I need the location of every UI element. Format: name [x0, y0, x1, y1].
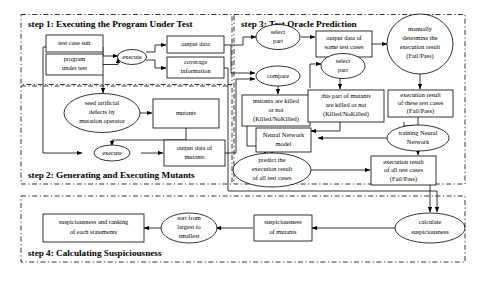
node-select-part-1[interactable]: select part	[256, 25, 300, 50]
node-program-under-test-line2: under test	[62, 64, 87, 71]
node-manually-line2: determine the	[403, 34, 438, 41]
node-suspiciousness-of-mutants[interactable]: suspiciousness of mutants	[254, 215, 312, 241]
node-thispart-line1: this part of mutants	[321, 92, 371, 99]
node-output-data-some-test-cases[interactable]: output data of some test cases	[316, 31, 372, 57]
node-execresultall-line2: of all test cases	[384, 166, 423, 173]
node-manually-line4: (Fail/Pass)	[406, 52, 433, 60]
node-compare-label: compare	[267, 72, 289, 79]
node-manually-determine[interactable]: manually determine the execution result …	[387, 14, 453, 74]
node-seed-defects-line3: mutation operator	[79, 117, 125, 124]
node-output-data-label: output data	[181, 40, 210, 47]
node-suspranking-line2: of each statements	[70, 228, 118, 235]
node-suspranking-line1: suspiciousness and ranking	[59, 218, 129, 225]
node-execution-result-all-test-cases[interactable]: execution result of all test cases (Fail…	[371, 156, 436, 185]
node-output-some-line1: output data of	[326, 34, 362, 41]
node-calculate-suspiciousness[interactable]: calculate suspiciousness	[395, 213, 465, 243]
node-nnmodel-line1: Neural Network	[263, 131, 305, 138]
node-coverage-information[interactable]: coverage information	[167, 57, 224, 78]
node-sort-largest-to-smallest[interactable]: sort from largest to smallest	[161, 213, 217, 243]
node-mutants-killed-line1: mutants are killed	[253, 97, 300, 104]
node-test-case-suit-label: test case suit	[58, 39, 91, 46]
node-thispart-line3: (Killed/NoKilled)	[323, 110, 369, 118]
node-output-data-of-mutants[interactable]: output data of mutants	[164, 140, 225, 166]
node-execresultthese-line1: execution result	[400, 91, 441, 98]
node-predict-execution-result[interactable]: predict the execution result of all test…	[233, 153, 311, 187]
node-select-part-1-line2: part	[273, 37, 283, 44]
node-predict-line3: of all test cases	[253, 174, 292, 181]
node-execution-result-these-test-cases[interactable]: execution result of these test cases (Fa…	[388, 90, 453, 117]
node-sort-line2: largest to	[177, 223, 201, 230]
node-manually-line3: execution result	[400, 43, 441, 50]
node-seed-defects-line1: seed artificial	[85, 99, 120, 106]
node-select-part-2[interactable]: select part	[321, 54, 365, 79]
node-select-part-2-line1: select	[336, 57, 351, 64]
node-compare[interactable]: compare	[256, 66, 300, 86]
node-seed-artificial-defects[interactable]: seed artificial defects by mutation oper…	[64, 94, 140, 133]
node-execute-1[interactable]: execute	[118, 50, 147, 65]
node-execresultall-line3: (Fail/Pass)	[390, 175, 417, 183]
node-execute-2[interactable]: execute	[94, 145, 130, 161]
node-trainingnn-line1: training Neural	[399, 129, 438, 136]
step2-label: step 2: Generating and Executing Mutants	[28, 170, 195, 180]
node-coverage-information-line1: coverage	[184, 58, 207, 65]
node-training-neural-network[interactable]: training Neural Network	[387, 125, 449, 151]
node-execresultall-line1: execution result	[383, 158, 424, 165]
step4-label: step 4: Calculating Suspiciousness	[28, 248, 162, 258]
node-test-case-suit[interactable]: test case suit	[46, 35, 103, 52]
node-nnmodel-line2: model	[276, 140, 292, 147]
step1-label: step 1: Executing the Program Under Test	[28, 19, 193, 29]
node-predict-line2: execution result	[252, 165, 293, 172]
node-execresultthese-line3: (Fail/Pass)	[407, 107, 434, 115]
node-program-under-test[interactable]: program under test	[46, 54, 103, 75]
node-sort-line1: sort from	[177, 214, 201, 221]
node-calculate-line1: calculate	[419, 218, 442, 225]
node-sort-line3: smallest	[179, 232, 200, 239]
node-execresultthese-line2: of these test cases	[398, 99, 444, 106]
node-mutants-killed-line2: or not	[268, 106, 283, 113]
node-execute-2-label: execute	[102, 149, 122, 156]
node-mutants[interactable]: mutants	[153, 99, 219, 128]
node-predict-line1: predict the	[258, 156, 285, 163]
flowchart-diagram: step 1: Executing the Program Under Test…	[0, 0, 480, 282]
node-trainingnn-line2: Network	[407, 138, 430, 145]
node-suspmutants-line1: suspiciousness	[264, 218, 302, 225]
node-mutants-label: mutants	[176, 109, 197, 116]
node-suspiciousness-and-ranking[interactable]: suspiciousness and ranking of each state…	[43, 214, 144, 242]
node-program-under-test-line1: program	[64, 55, 86, 62]
node-coverage-information-line2: information	[180, 67, 211, 74]
node-seed-defects-line2: defects by	[89, 108, 116, 115]
node-execute-1-label: execute	[122, 53, 142, 60]
node-mutants-are-killed-or-not[interactable]: mutants are killed or not (Killed/NoKill…	[242, 95, 310, 126]
node-this-part-of-mutants[interactable]: this part of mutants are killed or not (…	[308, 90, 384, 122]
node-output-mutants-line1: output data of	[177, 144, 213, 151]
step3-label: step 3: Test Oracle Prediction	[241, 19, 357, 29]
node-manually-line1: manually	[408, 25, 433, 32]
node-output-mutants-line2: mutants	[184, 153, 205, 160]
node-mutants-killed-line3: (Killed/NoKilled)	[253, 115, 299, 123]
node-calculate-line2: suspiciousness	[411, 228, 449, 235]
node-select-part-1-line1: select	[271, 28, 286, 35]
node-output-data[interactable]: output data	[167, 36, 224, 53]
node-output-some-line2: some test cases	[324, 43, 364, 50]
node-select-part-2-line2: part	[338, 66, 348, 73]
flowchart-svg: step 1: Executing the Program Under Test…	[0, 0, 480, 282]
node-suspmutants-line2: of mutants	[269, 228, 297, 235]
node-neural-network-model[interactable]: Neural Network model	[256, 128, 311, 152]
node-thispart-line2: are killed or not	[326, 101, 367, 108]
